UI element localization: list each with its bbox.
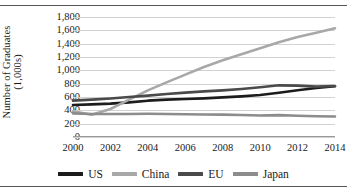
series-line-china	[73, 28, 335, 114]
legend-swatch-icon	[112, 172, 137, 175]
x-axis-tick-label: 2014	[313, 142, 347, 153]
chart-legend: USChinaEUJapan	[0, 168, 347, 180]
line-chart: Number of Graduates (1,000s) 02004006008…	[0, 8, 347, 184]
legend-item-china[interactable]: China	[112, 168, 169, 180]
legend-label: China	[142, 168, 169, 180]
series-line-us	[73, 86, 335, 105]
plot-area	[73, 17, 335, 137]
legend-swatch-icon	[178, 172, 203, 175]
legend-item-japan[interactable]: Japan	[233, 168, 289, 180]
series-line-japan	[73, 113, 335, 116]
legend-item-us[interactable]: US	[58, 168, 103, 180]
y-axis-title-line2: (1,000s)	[12, 13, 23, 131]
chart-page: Number of Graduates (1,000s) 02004006008…	[0, 0, 347, 194]
top-rule	[0, 5, 347, 6]
legend-item-eu[interactable]: EU	[178, 168, 223, 180]
legend-label: EU	[208, 168, 223, 180]
legend-label: US	[88, 168, 103, 180]
y-axis-title: Number of Graduates (1,000s)	[1, 13, 25, 131]
legend-swatch-icon	[233, 172, 258, 175]
gridline	[73, 137, 335, 138]
bottom-rule	[0, 186, 347, 187]
series-lines	[73, 17, 335, 137]
y-axis-title-line1: Number of Graduates	[1, 13, 12, 131]
legend-swatch-icon	[58, 172, 83, 175]
legend-label: Japan	[263, 168, 289, 180]
